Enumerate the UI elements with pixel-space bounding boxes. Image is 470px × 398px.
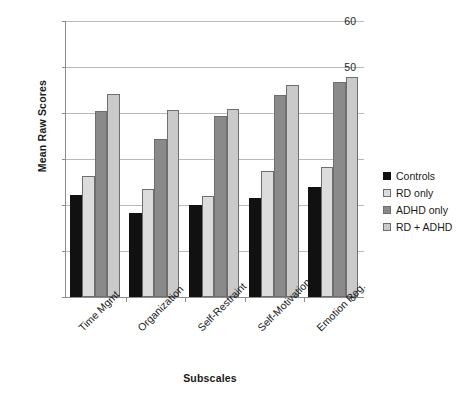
y-tick-mark (62, 205, 66, 206)
y-axis-title: Mean Raw Scores (36, 36, 48, 216)
bar-chart-figure: Mean Raw Scores Subscales 0102030405060 … (0, 0, 470, 398)
legend-label: ADHD only (396, 204, 448, 216)
bar (167, 110, 180, 297)
bar (321, 167, 334, 297)
legend-label: RD only (396, 187, 433, 199)
bar (189, 205, 202, 297)
legend-item[interactable]: Controls (383, 167, 469, 184)
y-tick-label: 60 (316, 16, 356, 26)
y-tick-label: 50 (316, 62, 356, 72)
bar (308, 187, 321, 297)
category-separator (245, 297, 246, 302)
bar (107, 94, 120, 297)
bar (95, 111, 108, 297)
legend-swatch-icon (383, 172, 391, 180)
bar (249, 198, 262, 297)
legend-swatch-icon (383, 223, 391, 231)
category-separator (126, 297, 127, 302)
bar (286, 85, 299, 297)
bar (274, 95, 287, 297)
legend-item[interactable]: RD only (383, 184, 469, 201)
y-tick-mark (62, 67, 66, 68)
bar (333, 82, 346, 297)
plot-area: 0102030405060 Time MgmtOrganizationSelf-… (66, 21, 364, 297)
bar (154, 139, 167, 297)
legend-item[interactable]: RD + ADHD (383, 218, 469, 235)
y-tick-mark (62, 159, 66, 160)
legend-item[interactable]: ADHD only (383, 201, 469, 218)
chart-legend: ControlsRD onlyADHD onlyRD + ADHD (383, 167, 469, 235)
bar (202, 196, 215, 297)
x-axis-title: Subscales (0, 372, 420, 384)
bar (70, 195, 83, 297)
bar (129, 213, 142, 297)
legend-swatch-icon (383, 189, 391, 197)
bar (227, 109, 240, 297)
bar (142, 189, 155, 297)
legend-label: Controls (396, 170, 435, 182)
bar (261, 171, 274, 297)
category-separator (185, 297, 186, 302)
legend-swatch-icon (383, 206, 391, 214)
legend-label: RD + ADHD (396, 221, 452, 233)
y-tick-mark (62, 297, 66, 298)
y-tick-mark (62, 113, 66, 114)
y-tick-mark (62, 251, 66, 252)
bar (346, 77, 359, 297)
category-separator (304, 297, 305, 302)
bar (214, 116, 227, 297)
bar (82, 176, 95, 297)
y-tick-mark (62, 21, 66, 22)
